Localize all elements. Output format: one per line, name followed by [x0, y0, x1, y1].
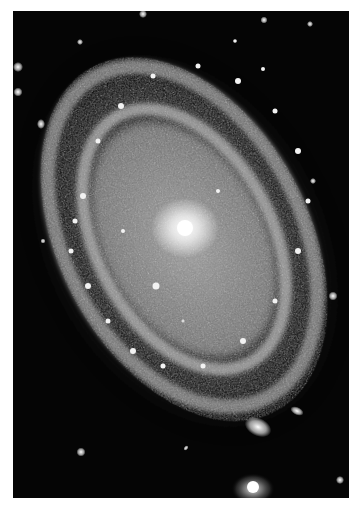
galaxy-photo — [13, 11, 349, 498]
galaxy-image — [13, 11, 349, 498]
